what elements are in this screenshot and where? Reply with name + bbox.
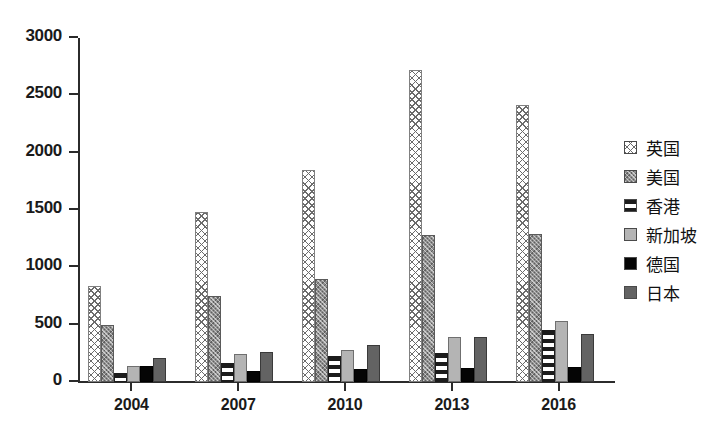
bar-sg-2007 [234, 354, 247, 382]
legend-item-de[interactable]: 德国 [624, 249, 714, 278]
legend-label: 美国 [646, 164, 680, 189]
legend-label: 新加坡 [646, 222, 697, 247]
x-tick [237, 382, 239, 391]
bar-de-2010 [354, 369, 367, 382]
bar-sg-2004 [127, 366, 140, 382]
bar-uk-2010 [302, 170, 315, 382]
bar-us-2004 [101, 325, 114, 382]
x-tick-label: 2004 [114, 396, 149, 414]
x-tick [344, 382, 346, 391]
bar-us-2016 [529, 234, 542, 382]
legend-label: 德国 [646, 251, 680, 276]
bar-sg-2016 [555, 321, 568, 382]
legend-swatch-icon [624, 257, 637, 270]
y-tick: 3000 [69, 36, 78, 38]
chart-legend: 英国美国香港新加坡德国日本 [624, 133, 714, 307]
bar-uk-2016 [516, 105, 529, 382]
y-tick-label: 1500 [25, 198, 62, 218]
bar-uk-2013 [409, 70, 422, 382]
bar-us-2010 [315, 279, 328, 382]
legend-label: 香港 [646, 193, 680, 218]
legend-item-jp[interactable]: 日本 [624, 278, 714, 307]
bar-group [409, 38, 487, 382]
legend-swatch-icon [624, 286, 637, 299]
y-tick: 2500 [69, 93, 78, 95]
y-tick-label: 3000 [25, 26, 62, 46]
y-tick-label: 1000 [25, 255, 62, 275]
bar-hk-2016 [542, 330, 555, 382]
y-tick: 500 [69, 323, 78, 325]
bar-jp-2004 [153, 358, 166, 382]
bar-jp-2016 [581, 334, 594, 382]
bar-jp-2013 [474, 337, 487, 382]
x-tick [130, 382, 132, 391]
y-tick-label: 500 [35, 312, 62, 332]
bar-de-2007 [247, 371, 260, 382]
x-tick-label: 2007 [221, 396, 256, 414]
plot-area: 050010001500200025003000 200420072010201… [78, 38, 612, 382]
bar-hk-2013 [435, 353, 448, 382]
legend-swatch-icon [624, 170, 637, 183]
bar-group [88, 38, 166, 382]
bar-hk-2010 [328, 356, 341, 382]
legend-item-hk[interactable]: 香港 [624, 191, 714, 220]
bar-group [302, 38, 380, 382]
bar-hk-2004 [114, 373, 127, 382]
x-tick [451, 382, 453, 391]
bar-us-2007 [208, 296, 221, 382]
y-tick-label: 2000 [25, 140, 62, 160]
bar-sg-2010 [341, 350, 354, 382]
bar-group [516, 38, 594, 382]
legend-label: 英国 [646, 135, 680, 160]
x-tick-label: 2016 [541, 396, 576, 414]
y-tick: 2000 [69, 151, 78, 153]
x-tick-label: 2010 [328, 396, 363, 414]
legend-swatch-icon [624, 228, 637, 241]
bar-de-2013 [461, 368, 474, 382]
bar-hk-2007 [221, 363, 234, 382]
bar-jp-2010 [367, 345, 380, 382]
bar-sg-2013 [448, 337, 461, 382]
legend-item-sg[interactable]: 新加坡 [624, 220, 714, 249]
y-tick-label: 2500 [25, 83, 62, 103]
y-tick-label: 0 [53, 370, 62, 390]
bar-uk-2007 [195, 212, 208, 382]
bar-chart: 050010001500200025003000 200420072010201… [0, 0, 717, 444]
bar-uk-2004 [88, 286, 101, 382]
y-tick: 1500 [69, 208, 78, 210]
x-tick-label: 2013 [434, 396, 469, 414]
y-tick: 0 [69, 380, 78, 382]
legend-label: 日本 [646, 280, 680, 305]
bar-group [195, 38, 273, 382]
bar-de-2004 [140, 366, 153, 382]
bar-de-2016 [568, 367, 581, 382]
legend-item-uk[interactable]: 英国 [624, 133, 714, 162]
legend-swatch-icon [624, 141, 637, 154]
y-tick: 1000 [69, 265, 78, 267]
bar-jp-2007 [260, 352, 273, 382]
bar-us-2013 [422, 235, 435, 382]
legend-item-us[interactable]: 美国 [624, 162, 714, 191]
x-tick [558, 382, 560, 391]
legend-swatch-icon [624, 199, 637, 212]
